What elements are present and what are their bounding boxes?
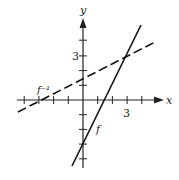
graph: y x 3 3 f f⁻¹: [0, 0, 179, 180]
x-tick-label-3: 3: [123, 107, 130, 120]
f-label: f: [95, 123, 102, 136]
y-axis-label: y: [79, 4, 87, 17]
y-tick-label-3: 3: [72, 50, 79, 63]
line-f: [72, 25, 141, 166]
x-axis-arrow-icon: [154, 97, 164, 104]
y-axis-arrow-icon: [80, 18, 87, 28]
f-inverse-label: f⁻¹: [36, 84, 50, 95]
x-axis-label: x: [166, 94, 173, 107]
